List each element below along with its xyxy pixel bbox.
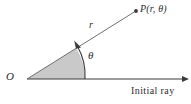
- filled-dot-icon-point-p: [134, 9, 138, 13]
- shaded-angle-sector: [27, 48, 85, 79]
- curved-arrow-icon-angle: [74, 41, 81, 49]
- point-p-label: P(r, θ): [140, 4, 167, 14]
- radius-label: r: [89, 20, 93, 30]
- arrowhead-icon-initial-ray: [182, 76, 189, 82]
- polar-coordinates-figure: O r θ P(r, θ) Initial ray: [0, 0, 191, 104]
- initial-ray-label: Initial ray: [131, 86, 175, 96]
- origin-label: O: [6, 71, 14, 82]
- angle-label: θ: [88, 50, 93, 61]
